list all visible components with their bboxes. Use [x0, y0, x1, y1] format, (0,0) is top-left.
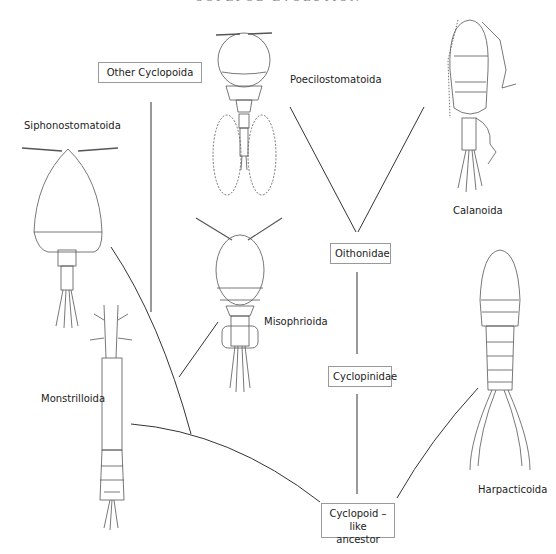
ancestor-label-line1: Cyclopoid – like	[326, 507, 390, 533]
node-oithonidae: Oithonidae	[330, 243, 391, 264]
label-harpacticoida: Harpacticoida	[478, 484, 547, 495]
branch-calanoida	[358, 107, 424, 232]
label-calanoida: Calanoida	[453, 205, 503, 216]
label-poecilostomatoida: Poecilostomatoida	[290, 74, 382, 85]
label-siphonostomatoida: Siphonostomatoida	[24, 120, 121, 131]
branch-poecilostomatoida	[290, 107, 356, 232]
misophrioida-drawing	[196, 218, 282, 392]
node-cyclopinidae: Cyclopinidae	[328, 366, 392, 387]
label-misophrioida: Misophrioida	[264, 316, 328, 327]
calanoida-drawing	[448, 20, 516, 192]
label-monstrilloida: Monstrilloida	[41, 393, 105, 404]
node-cyclopoid-like-ancestor: Cyclopoid – like ancestor	[321, 503, 395, 538]
branch-harpacticoida	[397, 388, 478, 498]
branch-monstrilloida	[131, 424, 320, 502]
monstrilloida-drawing	[90, 305, 132, 530]
tree-branches	[111, 102, 478, 502]
harpacticoida-drawing	[470, 250, 530, 470]
ancestor-label-line2: ancestor	[326, 533, 390, 546]
siphonostomatoida-drawing	[22, 148, 118, 328]
phylogeny-diagram	[0, 0, 556, 554]
poecilostomatoida-drawing	[213, 33, 276, 195]
node-other-cyclopoida: Other Cyclopoida	[98, 62, 202, 83]
branch-misophrioida	[179, 322, 218, 377]
